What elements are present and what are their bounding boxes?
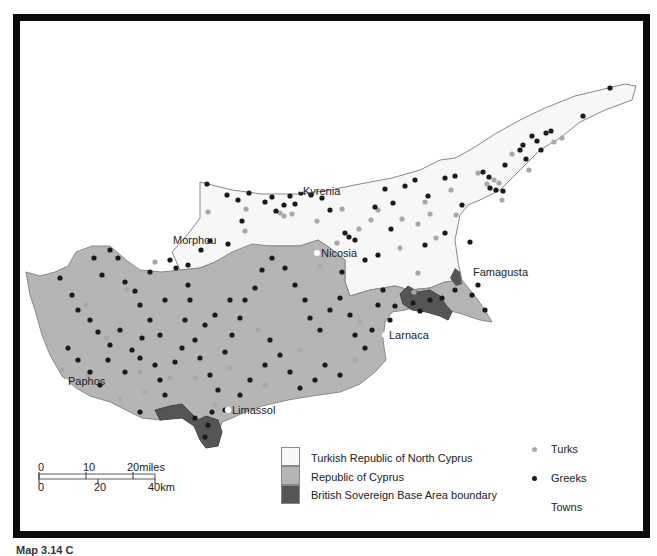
town-label-limassol: Limassol bbox=[232, 404, 275, 416]
swatch-trnc bbox=[281, 447, 300, 466]
towns-legend-dot-icon bbox=[532, 505, 537, 510]
turks-legend-dot-icon bbox=[532, 447, 537, 452]
town-label-larnaca: Larnaca bbox=[389, 329, 429, 341]
legend-label-sba: British Sovereign Base Area boundary bbox=[311, 489, 497, 501]
swatch-roc bbox=[281, 466, 300, 485]
legend-label-greeks: Greeks bbox=[551, 472, 586, 484]
town-label-morphou: Morphou bbox=[173, 234, 216, 246]
greeks-legend-dot-icon bbox=[532, 476, 537, 481]
scale-km-20: 20 bbox=[94, 481, 106, 493]
swatch-sba bbox=[281, 485, 300, 504]
legend-label-towns: Towns bbox=[551, 501, 582, 513]
legend-label-trnc: Turkish Republic of North Cyprus bbox=[311, 452, 473, 464]
scale-bar: 0 10 20miles 0 20 40km bbox=[38, 462, 218, 502]
legend-label-turks: Turks bbox=[551, 443, 578, 455]
town-label-kyrenia: Kyrenia bbox=[303, 185, 340, 197]
scale-km-40: 40km bbox=[148, 481, 175, 493]
scale-km-0: 0 bbox=[38, 481, 44, 493]
legend-area-swatches bbox=[281, 447, 300, 504]
map-caption: Map 3.14 C bbox=[16, 544, 73, 556]
town-label-famagusta: Famagusta bbox=[473, 266, 528, 278]
scale-bar-lines bbox=[38, 462, 218, 502]
town-label-nicosia: Nicosia bbox=[321, 247, 357, 259]
town-label-paphos: Paphos bbox=[68, 375, 105, 387]
legend-label-roc: Republic of Cyprus bbox=[311, 471, 404, 483]
